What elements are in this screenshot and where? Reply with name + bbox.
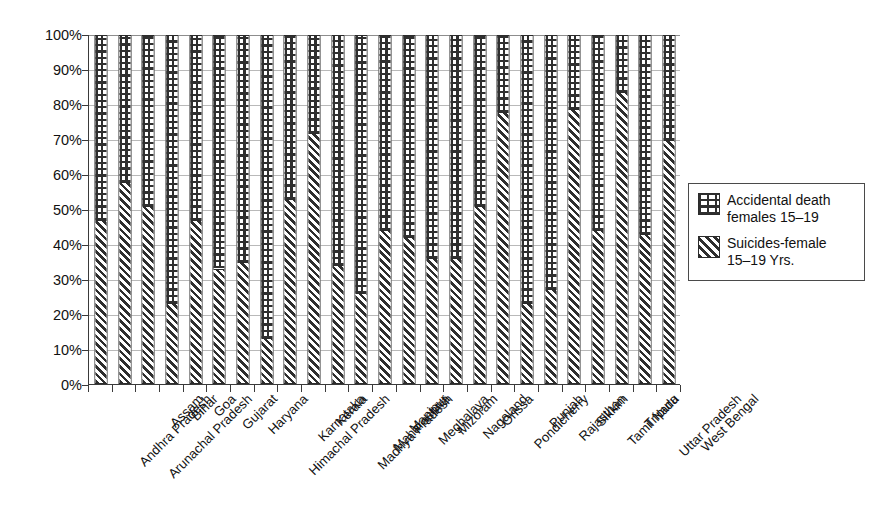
plot-area [88, 35, 680, 385]
stacked-bar[interactable] [568, 35, 581, 384]
y-axis-tick [82, 280, 88, 281]
stacked-bar[interactable] [142, 35, 155, 384]
bar-segment-suicides-female [664, 140, 675, 383]
bar-slot [349, 35, 373, 384]
stacked-bar[interactable] [615, 35, 628, 384]
bar-segment-suicides-female [474, 206, 485, 383]
y-axis-tick-label: 40% [36, 238, 82, 252]
bar-segment-suicides-female [522, 303, 533, 383]
y-axis: 100%90%80%70%60%50%40%30%20%10%0% [30, 35, 82, 385]
y-axis-tick [82, 210, 88, 211]
stacked-bar[interactable] [331, 35, 344, 384]
bar-slot [444, 35, 468, 384]
y-axis-tick [82, 35, 88, 36]
legend-item-suicides-female: Suicides-female 15–19 Yrs. [698, 235, 856, 269]
bar-segment-accidental-death [498, 36, 509, 112]
bar-segment-accidental-death [474, 36, 485, 206]
stacked-bar[interactable] [260, 35, 273, 384]
bar-segment-suicides-female [427, 258, 438, 383]
stacked-bar[interactable] [497, 35, 510, 384]
bar-segment-accidental-death [451, 36, 462, 258]
stacked-bar[interactable] [307, 35, 320, 384]
stacked-bar[interactable] [639, 35, 652, 384]
bar-slot [160, 35, 184, 384]
bar-segment-accidental-death [522, 36, 533, 303]
stacked-bar[interactable] [663, 35, 676, 384]
x-axis-label: Sikkim [594, 392, 631, 429]
bar-segment-accidental-death [261, 36, 272, 338]
stacked-bar[interactable] [165, 35, 178, 384]
stacked-bar[interactable] [592, 35, 605, 384]
bar-segment-accidental-death [640, 36, 651, 234]
stacked-bar[interactable] [473, 35, 486, 384]
bar-slot [89, 35, 113, 384]
bar-segment-suicides-female [237, 262, 248, 383]
y-axis-tick [82, 140, 88, 141]
bar-segment-accidental-death [332, 36, 343, 265]
stacked-bar[interactable] [426, 35, 439, 384]
bar-segment-suicides-female [569, 109, 580, 383]
stacked-bar[interactable] [450, 35, 463, 384]
y-axis-tick-label: 50% [36, 203, 82, 217]
bar-segment-accidental-death [379, 36, 390, 230]
bar-slot [586, 35, 610, 384]
y-axis-tick-label: 80% [36, 98, 82, 112]
y-axis-tick-label: 90% [36, 63, 82, 77]
stacked-bar[interactable] [378, 35, 391, 384]
bar-slot [255, 35, 279, 384]
bar-segment-accidental-death [664, 36, 675, 140]
y-axis-tick [82, 315, 88, 316]
y-axis-tick-label: 60% [36, 168, 82, 182]
bar-segment-suicides-female [593, 230, 604, 383]
chart-legend: Accidental death females 15–19 Suicides-… [688, 183, 865, 281]
legend-label-suicides-female: Suicides-female 15–19 Yrs. [727, 235, 827, 269]
bar-slot [278, 35, 302, 384]
bar-slot [136, 35, 160, 384]
bar-segment-accidental-death [119, 36, 130, 182]
bar-slot [492, 35, 516, 384]
stacked-bar[interactable] [544, 35, 557, 384]
bar-slot [421, 35, 445, 384]
bar-segment-suicides-female [285, 199, 296, 383]
bar-slot [207, 35, 231, 384]
bar-segment-accidental-death [356, 36, 367, 293]
y-axis-tick-label: 10% [36, 343, 82, 357]
bar-segment-accidental-death [616, 36, 627, 92]
suicide-pattern-swatch [698, 236, 720, 258]
bar-segment-accidental-death [143, 36, 154, 206]
stacked-bar-chart: 100%90%80%70%60%50%40%30%20%10%0% Andhra… [0, 0, 880, 529]
stacked-bar[interactable] [213, 35, 226, 384]
stacked-bar[interactable] [189, 35, 202, 384]
bar-slot [302, 35, 326, 384]
bar-slot [397, 35, 421, 384]
y-axis-tick-label: 100% [36, 28, 82, 42]
bar-segment-suicides-female [403, 237, 414, 383]
bar-segment-suicides-female [332, 265, 343, 383]
bar-slot [657, 35, 681, 384]
y-axis-tick [82, 385, 88, 386]
stacked-bar[interactable] [521, 35, 534, 384]
bar-series-container [89, 35, 680, 384]
bar-slot [326, 35, 350, 384]
stacked-bar[interactable] [118, 35, 131, 384]
stacked-bar[interactable] [94, 35, 107, 384]
stacked-bar[interactable] [236, 35, 249, 384]
bar-segment-accidental-death [190, 36, 201, 220]
bar-slot [610, 35, 634, 384]
y-axis-tick [82, 350, 88, 351]
bar-segment-suicides-female [214, 269, 225, 384]
legend-label-accidental-death: Accidental death females 15–19 [727, 192, 831, 226]
bar-segment-accidental-death [166, 36, 177, 303]
y-axis-tick [82, 245, 88, 246]
stacked-bar[interactable] [284, 35, 297, 384]
bar-segment-suicides-female [356, 293, 367, 383]
bar-segment-suicides-female [95, 220, 106, 383]
stacked-bar[interactable] [402, 35, 415, 384]
bar-segment-suicides-female [616, 92, 627, 383]
bar-slot [539, 35, 563, 384]
bar-segment-suicides-female [119, 182, 130, 383]
stacked-bar[interactable] [355, 35, 368, 384]
x-axis-label: Tripura [642, 392, 680, 430]
bar-segment-accidental-death [427, 36, 438, 258]
y-axis-tick-label: 30% [36, 273, 82, 287]
